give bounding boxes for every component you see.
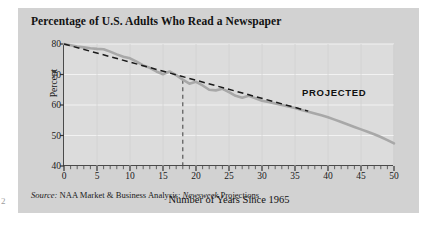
chart-title: Percentage of U.S. Adults Who Read a New… xyxy=(31,15,281,27)
x-tick-label: 40 xyxy=(323,171,333,181)
y-axis-ticks xyxy=(60,44,64,166)
source-body-after: Projections xyxy=(218,190,259,200)
y-tick-label: 40 xyxy=(35,161,61,171)
y-tick-label: 60 xyxy=(35,100,61,110)
chart-figure-panel: Percentage of U.S. Adults Who Read a New… xyxy=(18,8,419,213)
plot-area: Percent Number of Years Since 1965 40506… xyxy=(63,44,393,166)
y-tick-label: 50 xyxy=(35,131,61,141)
x-tick-label: 15 xyxy=(158,171,168,181)
x-tick-label: 30 xyxy=(257,171,267,181)
plot-canvas xyxy=(64,44,393,165)
chart-svg xyxy=(64,44,394,166)
x-tick-label: 45 xyxy=(356,171,366,181)
x-tick-label: 10 xyxy=(125,171,135,181)
x-tick-label: 25 xyxy=(224,171,234,181)
source-body-before: NAA Market & Business Analysis; xyxy=(57,190,182,200)
projected-annotation: PROJECTED xyxy=(302,87,366,98)
trend-line xyxy=(64,44,308,111)
y-tick-label: 70 xyxy=(35,70,61,80)
page-number-artifact: 2 xyxy=(1,196,6,206)
x-axis-major-ticks xyxy=(64,166,394,171)
source-publication: Newsweek xyxy=(183,190,219,200)
x-tick-label: 20 xyxy=(191,171,201,181)
source-note: Source: NAA Market & Business Analysis; … xyxy=(31,190,259,200)
x-tick-label: 35 xyxy=(290,171,300,181)
x-tick-label: 5 xyxy=(95,171,100,181)
y-tick-label: 80 xyxy=(35,39,61,49)
x-tick-label: 0 xyxy=(62,171,67,181)
source-prefix: Source: xyxy=(31,190,57,200)
x-tick-label: 50 xyxy=(389,171,399,181)
